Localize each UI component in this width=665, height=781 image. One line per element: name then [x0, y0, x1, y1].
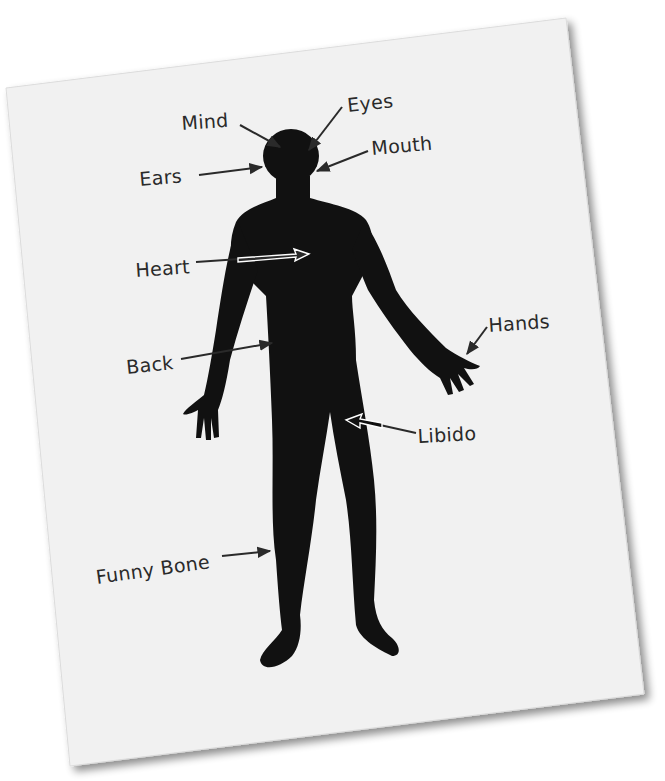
- label-hands: Hands: [488, 310, 551, 336]
- label-mind: Mind: [181, 109, 229, 134]
- body-diagram: Mind Eyes Ears Mouth Heart Back Hands Li…: [0, 0, 665, 781]
- head: [263, 129, 319, 183]
- label-ears: Ears: [138, 164, 182, 190]
- label-libido: Libido: [417, 422, 477, 447]
- label-heart: Heart: [135, 255, 191, 281]
